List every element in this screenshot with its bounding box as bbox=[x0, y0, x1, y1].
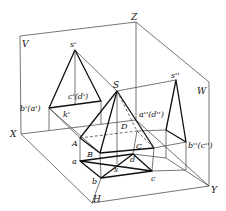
label-x: X bbox=[9, 129, 17, 139]
y-axis-line bbox=[136, 120, 209, 186]
label-A: A bbox=[71, 139, 78, 148]
projector-d-to-w bbox=[137, 130, 166, 131]
label-d: d bbox=[130, 155, 135, 164]
label-b: b bbox=[92, 177, 97, 186]
v-plane-outline bbox=[20, 22, 136, 134]
label-c-prime-d-prime: c'(d') bbox=[68, 92, 88, 101]
label-w: W bbox=[197, 86, 207, 96]
edge-BC bbox=[100, 148, 154, 153]
label-s: s bbox=[114, 165, 118, 174]
edge-AD-hidden bbox=[80, 131, 137, 138]
label-B: B bbox=[86, 150, 93, 159]
h-to-w-line-2 bbox=[152, 170, 186, 171]
label-h: H bbox=[92, 194, 101, 204]
label-s-prime: s' bbox=[70, 40, 76, 49]
projection-diagram: Z V W X Y H s' b'(a') c'(d') k' S A B C … bbox=[0, 0, 226, 211]
v-projection bbox=[49, 50, 101, 130]
projector-s-to-w bbox=[117, 80, 176, 91]
labels: Z V W X Y H s' b'(a') c'(d') k' S A B C … bbox=[9, 12, 218, 204]
label-s-double-prime: s'' bbox=[171, 71, 180, 80]
h-to-w-line-3 bbox=[166, 158, 209, 186]
projector-s-to-v bbox=[75, 50, 117, 91]
label-y: Y bbox=[211, 185, 218, 195]
w-plane-outline bbox=[136, 22, 209, 186]
label-k-prime: k' bbox=[63, 110, 70, 119]
label-v: V bbox=[22, 39, 30, 49]
label-a-dprime-d-dprime: a''(d'') bbox=[139, 110, 164, 119]
label-C: C bbox=[136, 142, 142, 151]
label-S: S bbox=[113, 80, 119, 90]
label-b-dprime-c-dprime: b''(c'') bbox=[188, 141, 213, 150]
label-z: Z bbox=[130, 12, 138, 22]
label-D: D bbox=[120, 122, 128, 131]
projector-b-to-h bbox=[100, 153, 101, 178]
projector-c-to-w bbox=[154, 142, 186, 148]
x-axis-line bbox=[21, 120, 136, 134]
h-to-w-line-1 bbox=[133, 154, 166, 158]
w-projection-triangle bbox=[166, 80, 186, 142]
label-c: c bbox=[151, 174, 156, 183]
label-a: a bbox=[72, 157, 77, 166]
projector-c-to-h bbox=[152, 148, 154, 171]
edge-SB bbox=[100, 91, 117, 153]
label-b-prime-a-prime: b'(a') bbox=[20, 104, 41, 113]
